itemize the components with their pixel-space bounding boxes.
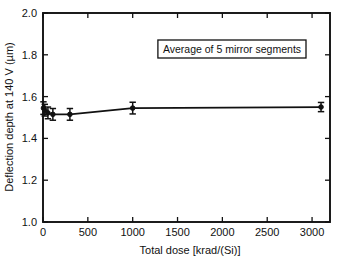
y-tick-label: 1.8 <box>22 49 37 61</box>
y-tick-label: 1.2 <box>22 174 37 186</box>
y-axis-tick-labels: 1.01.21.41.61.82.0 <box>22 7 37 228</box>
x-tick-label: 1000 <box>120 226 144 238</box>
x-tick-label: 2500 <box>255 226 279 238</box>
data-series-error-bars <box>40 102 324 120</box>
y-tick-label: 1.0 <box>22 216 37 228</box>
data-point <box>130 106 135 111</box>
x-axis-title: Total dose [krad/(Si)] <box>140 244 241 256</box>
y-tick-label: 1.6 <box>22 91 37 103</box>
x-tick-label: 0 <box>40 226 46 238</box>
y-tick-label: 2.0 <box>22 7 37 19</box>
y-tick-label: 1.4 <box>22 132 37 144</box>
deflection-depth-vs-total-dose-chart: 050010001500200025003000 1.01.21.41.61.8… <box>0 0 347 261</box>
y-axis-title: Deflection depth at 140 V (µm) <box>3 42 15 191</box>
data-point <box>68 112 73 117</box>
chart-figure: 050010001500200025003000 1.01.21.41.61.8… <box>0 0 347 261</box>
legend-label: Average of 5 mirror segments <box>163 43 301 55</box>
series-line-deflection-depth <box>43 107 321 114</box>
x-tick-label: 1500 <box>165 226 189 238</box>
data-point <box>319 105 324 110</box>
x-axis-tick-labels: 050010001500200025003000 <box>40 226 324 238</box>
legend-annotation: Average of 5 mirror segments <box>158 40 306 58</box>
data-series-line <box>43 107 321 114</box>
data-point <box>51 112 56 117</box>
x-tick-label: 3000 <box>300 226 324 238</box>
x-tick-label: 500 <box>79 226 97 238</box>
data-point <box>46 111 51 116</box>
x-tick-label: 2000 <box>210 226 234 238</box>
